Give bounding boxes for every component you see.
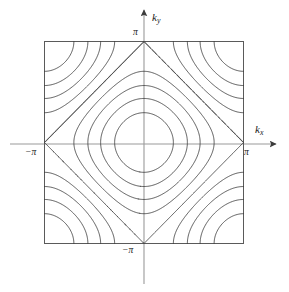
x-axis-max-tick-label: π [244, 148, 249, 158]
contour-plot-figure: ky kx π −π π −π [0, 0, 289, 292]
contour-line [45, 214, 74, 244]
contour-line [45, 172, 115, 243]
y-axis-min-tick-label: −π [122, 246, 133, 256]
y-axis-label-subscript: y [157, 16, 161, 25]
contour-line [214, 214, 243, 244]
plot-canvas [0, 0, 289, 292]
contour-line [173, 42, 243, 113]
contour-line [214, 42, 243, 72]
x-axis-label: kx [255, 124, 263, 137]
x-axis-min-tick-label: −π [25, 148, 36, 158]
y-axis-label: ky [152, 12, 160, 25]
contour-line [173, 172, 243, 243]
contour-line [45, 42, 74, 72]
x-axis-label-subscript: x [260, 128, 264, 137]
y-axis-max-tick-label: π [133, 28, 138, 38]
contour-line [45, 42, 115, 113]
